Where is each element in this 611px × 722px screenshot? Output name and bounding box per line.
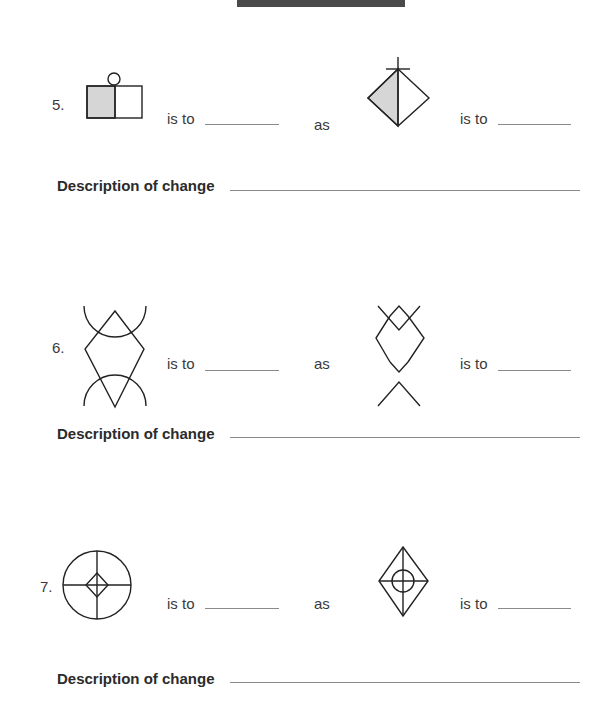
figure-diamond-crosses-icon xyxy=(376,306,430,410)
answer-blank-1[interactable] xyxy=(205,124,279,125)
is-to-label: is to xyxy=(460,595,488,612)
header-bar xyxy=(237,0,405,7)
description-line[interactable] xyxy=(230,437,580,438)
answer-blank-1[interactable] xyxy=(205,370,279,371)
item-number: 7. xyxy=(40,578,53,595)
answer-blank-2[interactable] xyxy=(498,124,571,125)
is-to-label: is to xyxy=(167,110,195,127)
figure-circle-cross-diamond-icon xyxy=(60,548,134,622)
item-number: 6. xyxy=(52,339,65,356)
is-to-label: is to xyxy=(460,110,488,127)
description-line[interactable] xyxy=(230,682,580,683)
description-label: Description of change xyxy=(57,177,215,194)
as-label: as xyxy=(314,116,330,133)
figure-diamond-arcs-icon xyxy=(82,306,152,410)
as-label: as xyxy=(314,355,330,372)
item-number: 5. xyxy=(52,96,65,113)
figure-split-square-icon xyxy=(86,70,146,122)
description-line[interactable] xyxy=(230,190,580,191)
as-label: as xyxy=(314,595,330,612)
is-to-label: is to xyxy=(167,595,195,612)
answer-blank-2[interactable] xyxy=(498,370,571,371)
description-label: Description of change xyxy=(57,670,215,687)
answer-blank-1[interactable] xyxy=(205,608,279,609)
figure-split-diamond-icon xyxy=(367,55,433,130)
is-to-label: is to xyxy=(167,355,195,372)
is-to-label: is to xyxy=(460,355,488,372)
description-label: Description of change xyxy=(57,425,215,442)
answer-blank-2[interactable] xyxy=(498,608,571,609)
figure-diamond-cross-circle-icon xyxy=(378,546,430,618)
